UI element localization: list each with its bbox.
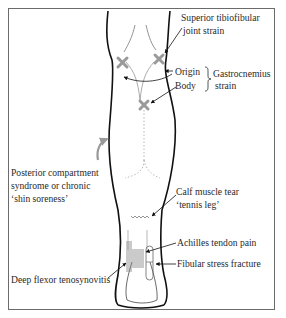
label-gastrocnemius-line2: strain bbox=[215, 80, 236, 91]
gastrocnemius-body-marker bbox=[140, 101, 148, 109]
label-calf-muscle-tear-line1: Calf muscle tear bbox=[176, 186, 239, 197]
label-calf-muscle-tear-line2: ‘tennis leg’ bbox=[176, 199, 219, 210]
label-fibular-stress: Fibular stress fracture bbox=[177, 258, 261, 269]
superior-tibiofibular-marker bbox=[155, 55, 163, 63]
label-posterior-compartment-line2: syndrome or chronic bbox=[11, 180, 90, 191]
heel-outline bbox=[118, 305, 164, 308]
leg-diagram bbox=[0, 0, 286, 318]
gastrocnemius-origin-marker-left bbox=[118, 58, 127, 67]
leg-outline-left bbox=[107, 11, 121, 305]
label-posterior-compartment-line3: ‘shin soreness’ bbox=[11, 193, 68, 204]
label-deep-flexor: Deep flexor tenosynovitis bbox=[11, 274, 110, 285]
gastrocnemius-brace-icon bbox=[203, 66, 213, 92]
label-origin: Origin bbox=[175, 66, 200, 77]
calf-tear-marker bbox=[131, 216, 149, 218]
label-achilles: Achilles tendon pain bbox=[177, 237, 256, 248]
label-superior-tibiofibular-line2: joint strain bbox=[183, 25, 224, 36]
label-body: Body bbox=[175, 80, 196, 91]
achilles-marker bbox=[133, 249, 143, 268]
posterior-compartment-arrow bbox=[97, 139, 107, 160]
label-posterior-compartment-line1: Posterior compartment bbox=[11, 167, 99, 178]
label-gastrocnemius-line1: Gastrocnemius bbox=[213, 68, 271, 79]
label-superior-tibiofibular-line1: Superior tibiofibular bbox=[181, 12, 260, 23]
